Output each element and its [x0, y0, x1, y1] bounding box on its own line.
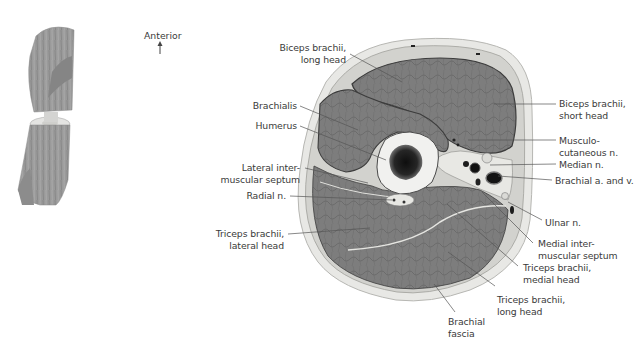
label-line: Biceps brachii, [559, 98, 626, 110]
label-line: short head [559, 110, 626, 122]
ulnar-nerve [502, 193, 509, 200]
label-line: Triceps brachii, [200, 228, 284, 240]
label-triceps-medial-head: Triceps brachii, medial head [523, 262, 591, 286]
brachial-vein [486, 172, 502, 184]
median-nerve [482, 153, 492, 163]
label-line: Biceps brachii, [250, 42, 346, 54]
label-biceps-long-head: Biceps brachii, long head [250, 42, 346, 66]
label-line: fascia [448, 328, 485, 340]
label-ulnar-nerve: Ulnar n. [545, 217, 581, 229]
arrow-up-icon [158, 41, 163, 54]
label-line: long head [250, 54, 346, 66]
label-brachialis: Brachialis [230, 100, 297, 112]
label-brachial-fascia: Brachial fascia [448, 316, 485, 340]
cross-section [298, 38, 533, 301]
label-line: lateral head [200, 240, 284, 252]
label-line: Lateral inter- [200, 162, 300, 174]
arm-overview-illustration [18, 27, 74, 205]
label-line: Musculo- [559, 135, 618, 147]
brachial-artery [470, 163, 480, 173]
label-median-nerve: Median n. [559, 159, 604, 171]
label-line: muscular septum [200, 174, 300, 186]
label-musculocutaneous-nerve: Musculo- cutaneous n. [559, 135, 618, 159]
label-line: Medial inter- [538, 238, 617, 250]
label-humerus: Humerus [230, 120, 297, 132]
label-lateral-intermuscular-septum: Lateral inter- muscular septum [200, 162, 300, 186]
label-line: cutaneous n. [559, 147, 618, 159]
label-line: medial head [523, 274, 591, 286]
label-triceps-lateral-head: Triceps brachii, lateral head [200, 228, 284, 252]
label-biceps-short-head: Biceps brachii, short head [559, 98, 626, 122]
label-line: Brachial [448, 316, 485, 328]
label-line: long head [497, 306, 565, 318]
label-line: Triceps brachii, [523, 262, 591, 274]
label-medial-intermuscular-septum: Medial inter- muscular septum [538, 238, 617, 262]
orientation-label: Anterior [144, 30, 182, 41]
label-line: Triceps brachii, [497, 294, 565, 306]
label-brachial-artery-vein: Brachial a. and v. [555, 175, 634, 187]
label-triceps-long-head: Triceps brachii, long head [497, 294, 565, 318]
label-line: muscular septum [538, 250, 617, 262]
label-radial-nerve: Radial n. [220, 190, 286, 202]
